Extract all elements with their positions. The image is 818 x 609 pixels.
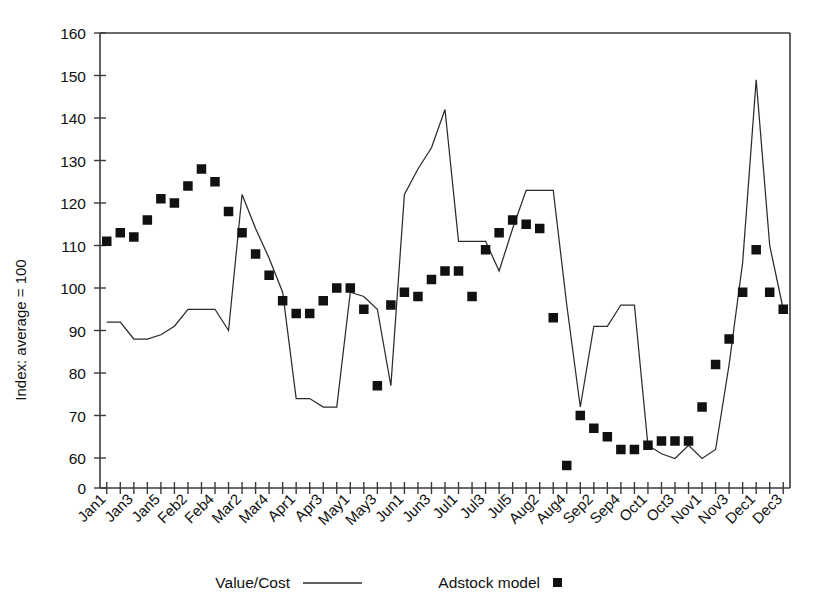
y-tick-label: 150	[60, 68, 86, 85]
adstock-data-point	[751, 245, 761, 255]
adstock-data-point	[440, 266, 450, 276]
adstock-data-point	[346, 283, 356, 293]
x-tick-label: Oct1	[616, 490, 650, 524]
adstock-data-point	[643, 441, 653, 451]
adstock-data-point	[305, 309, 315, 319]
adstock-data-point	[765, 288, 775, 298]
x-tick-label: Nov3	[694, 490, 731, 527]
adstock-data-point	[630, 445, 640, 455]
y-tick-label: 160	[60, 25, 86, 42]
adstock-data-point	[562, 461, 572, 471]
adstock-data-point	[264, 271, 274, 281]
adstock-data-point	[548, 313, 558, 323]
adstock-data-point	[143, 215, 153, 225]
x-tick-label: Feb2	[154, 490, 190, 526]
y-tick-label: 70	[69, 408, 87, 425]
adstock-data-point	[481, 245, 491, 255]
legend-square-swatch	[553, 578, 562, 587]
adstock-data-point	[129, 232, 139, 242]
adstock-data-point	[778, 305, 788, 315]
adstock-data-point	[291, 309, 301, 319]
adstock-data-point	[535, 224, 545, 234]
value-cost-adstock-chart: Index: average = 100 0607080901001101201…	[0, 0, 818, 609]
adstock-data-point	[251, 249, 261, 259]
adstock-data-point	[197, 164, 207, 174]
adstock-data-point	[373, 381, 383, 391]
legend-label-adstock-model: Adstock model	[438, 574, 540, 591]
adstock-data-point	[521, 220, 531, 230]
adstock-data-point	[684, 436, 694, 446]
adstock-data-point	[711, 360, 721, 370]
x-tick-label: Dec1	[722, 490, 759, 527]
x-tick-label: Sep4	[586, 490, 623, 527]
x-tick-label: Dec3	[749, 490, 786, 527]
adstock-data-point	[156, 194, 166, 204]
x-tick-label: Mar2	[208, 490, 244, 526]
adstock-data-point	[116, 228, 126, 238]
y-tick-label: 110	[61, 238, 86, 255]
x-tick-label: Nov1	[667, 490, 704, 527]
y-axis-title-text: Index: average = 100	[12, 259, 29, 400]
adstock-data-point	[427, 275, 437, 285]
x-tick-label: Jun3	[399, 490, 434, 525]
x-tick-label: Feb4	[181, 490, 217, 526]
chart-legend: Value/Cost Adstock model	[215, 574, 562, 591]
y-tick-label: 140	[60, 110, 86, 127]
adstock-data-point	[170, 198, 180, 208]
x-tick-label: Jan5	[128, 490, 163, 525]
adstock-data-point	[332, 283, 342, 293]
adstock-data-point	[697, 402, 707, 412]
x-tick-label: Mar4	[235, 490, 271, 526]
adstock-data-point	[413, 292, 423, 302]
y-tick-label: 100	[60, 280, 86, 297]
adstock-data-point	[183, 181, 193, 191]
legend-label-value-cost: Value/Cost	[215, 574, 290, 591]
x-tick-label: Apr1	[264, 490, 298, 524]
x-tick-label: Jun1	[372, 490, 407, 525]
x-axis-tick-labels: Jan1Jan3Jan5Feb2Feb4Mar2Mar4Apr1Apr3May1…	[74, 490, 785, 528]
x-tick-label: Sep2	[559, 490, 596, 527]
x-tick-label: Aug2	[505, 490, 542, 527]
adstock-data-point	[467, 292, 477, 302]
adstock-data-point	[278, 296, 288, 306]
y-axis-title: Index: average = 100	[12, 259, 29, 400]
adstock-data-point	[102, 237, 112, 247]
x-tick-label: Jan3	[101, 490, 136, 525]
y-tick-label: 60	[69, 450, 87, 467]
chart-container: Index: average = 100 0607080901001101201…	[0, 0, 818, 609]
adstock-data-point	[724, 334, 734, 344]
adstock-data-point	[508, 215, 518, 225]
adstock-data-point	[454, 266, 464, 276]
x-tick-label: Aug4	[532, 490, 569, 527]
y-tick-label: 130	[60, 153, 86, 170]
adstock-data-point	[576, 411, 586, 421]
y-tick-label: 90	[69, 323, 87, 340]
adstock-data-point	[494, 228, 504, 238]
adstock-data-point	[670, 436, 680, 446]
adstock-model-marker-series	[102, 164, 788, 470]
y-tick-label: 120	[60, 195, 86, 212]
adstock-data-point	[359, 305, 369, 315]
adstock-data-point	[224, 207, 234, 217]
adstock-data-point	[589, 424, 599, 434]
adstock-data-point	[386, 300, 396, 310]
axes	[100, 33, 790, 488]
adstock-data-point	[318, 296, 328, 306]
y-tick-label: 0	[77, 480, 86, 497]
adstock-data-point	[738, 288, 748, 298]
adstock-data-point	[210, 177, 220, 187]
x-tick-label: Jul1	[429, 490, 460, 521]
x-tick-label: Jul3	[456, 490, 487, 521]
adstock-data-point	[603, 432, 613, 442]
x-tick-label: May3	[342, 490, 380, 528]
adstock-data-point	[616, 445, 626, 455]
y-axis-ticks: 060708090100110120130140150160	[60, 25, 106, 497]
y-tick-label: 80	[69, 365, 87, 382]
adstock-data-point	[657, 436, 667, 446]
adstock-data-point	[237, 228, 247, 238]
adstock-data-point	[400, 288, 410, 298]
